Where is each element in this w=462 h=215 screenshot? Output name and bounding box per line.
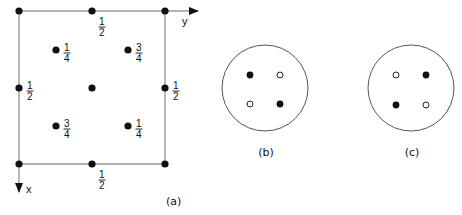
fraction-denominator: 2: [99, 180, 105, 191]
atom-point: [161, 160, 168, 167]
atom-point: [15, 7, 22, 14]
panel-b-label: (b): [258, 146, 274, 159]
atom-dot: [88, 7, 95, 14]
height-fraction-label: 34: [64, 118, 71, 140]
height-fraction-label: 12: [99, 16, 106, 38]
open-point: [393, 72, 399, 78]
atom-point: 12: [88, 160, 105, 191]
fraction-denominator: 2: [173, 91, 179, 102]
atom-dot: [88, 160, 95, 167]
fraction-numerator: 3: [64, 118, 70, 129]
atom-dot: [88, 84, 95, 91]
open-point: [277, 72, 283, 78]
panel-a: y x (a) 1214341212341412: [15, 7, 198, 208]
atom-point: [88, 84, 95, 91]
projection-points-c: [393, 72, 430, 109]
fraction-denominator: 2: [27, 91, 33, 102]
fraction-numerator: 1: [64, 42, 70, 53]
atom-point: [161, 7, 168, 14]
height-fraction-label: 12: [99, 169, 106, 191]
fraction-numerator: 1: [99, 169, 105, 180]
height-fraction-label: 12: [173, 80, 180, 102]
fraction-numerator: 1: [27, 80, 33, 91]
atom-point: 34: [52, 118, 70, 140]
atom-point: 14: [124, 118, 142, 140]
atom-dot: [52, 122, 59, 129]
atom-dot: [15, 160, 22, 167]
atom-dot: [15, 84, 22, 91]
figure-canvas: y x (a) 1214341212341412 (b) (c): [0, 0, 462, 215]
projection-points-b: [247, 72, 284, 108]
height-fraction-label: 12: [27, 80, 34, 102]
open-point: [423, 102, 429, 108]
fraction-denominator: 4: [136, 53, 142, 64]
panel-a-label: (a): [166, 195, 181, 208]
fraction-denominator: 2: [99, 27, 105, 38]
filled-point: [247, 72, 254, 79]
filled-point: [423, 72, 430, 79]
atom-dot: [15, 7, 22, 14]
atom-dot: [124, 122, 131, 129]
fraction-numerator: 3: [136, 42, 142, 53]
atom-dot: [124, 46, 131, 53]
fraction-numerator: 1: [99, 16, 105, 27]
atom-dot: [161, 7, 168, 14]
atom-point: 34: [124, 42, 142, 64]
atom-point: [15, 160, 22, 167]
height-fraction-label: 14: [136, 118, 143, 140]
projection-circle-b: [222, 45, 308, 131]
height-fraction-label: 14: [64, 42, 71, 64]
panel-c: (c): [368, 45, 454, 159]
atom-dot: [52, 46, 59, 53]
y-axis-label: y: [182, 15, 188, 27]
atom-point: 12: [88, 7, 105, 38]
panel-b: (b): [222, 45, 308, 159]
fraction-denominator: 4: [136, 129, 142, 140]
height-fraction-label: 34: [136, 42, 143, 64]
atom-point: 12: [15, 80, 33, 102]
open-point: [247, 101, 253, 107]
fraction-numerator: 1: [136, 118, 142, 129]
atom-dot: [161, 84, 168, 91]
projection-circle-c: [368, 45, 454, 131]
atom-point: 12: [161, 80, 179, 102]
atom-dot: [161, 160, 168, 167]
fraction-numerator: 1: [173, 80, 179, 91]
atom-point: 14: [52, 42, 70, 64]
panel-c-label: (c): [405, 146, 420, 159]
fraction-denominator: 4: [64, 129, 70, 140]
filled-point: [277, 101, 284, 108]
filled-point: [393, 102, 400, 109]
x-axis-label: x: [26, 183, 32, 195]
fraction-denominator: 4: [64, 53, 70, 64]
